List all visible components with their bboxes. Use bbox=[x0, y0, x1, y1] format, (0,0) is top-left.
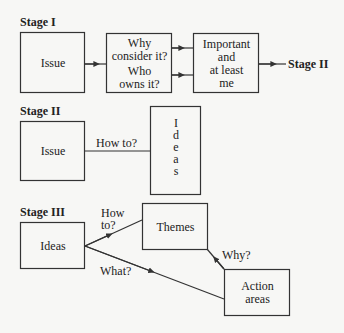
important-line3: at least bbox=[210, 64, 244, 77]
stage2-issue-label: Issue bbox=[21, 122, 85, 181]
stage1-important-label: Important and at least me bbox=[194, 34, 259, 93]
important-line4: me bbox=[219, 77, 234, 90]
stage3-howto-label: How to? bbox=[101, 207, 124, 231]
stage2-howto-label: How to? bbox=[96, 136, 137, 151]
diagram-canvas: Stage I Issue Why consider it? Who owns … bbox=[0, 0, 344, 333]
stage3-what-label: What? bbox=[100, 264, 131, 279]
stage2-title: Stage II bbox=[20, 104, 60, 119]
stage3-ideas-label: Ideas bbox=[21, 223, 85, 269]
questions-line3: Who bbox=[128, 65, 151, 78]
stage3-title: Stage III bbox=[20, 205, 65, 220]
stage1-next-stage-label: Stage II bbox=[288, 57, 328, 72]
important-line1: Important bbox=[203, 38, 250, 51]
questions-line4: owns it? bbox=[119, 78, 159, 91]
action-line2: areas bbox=[245, 293, 270, 306]
stage3-themes-label: Themes bbox=[143, 204, 208, 250]
stage3-why-label: Why? bbox=[222, 248, 251, 263]
stage1-title: Stage I bbox=[20, 15, 56, 30]
questions-line2: consider it? bbox=[112, 50, 168, 63]
stage1-issue-label: Issue bbox=[21, 33, 85, 93]
stage1-questions-label: Why consider it? Who owns it? bbox=[107, 34, 172, 93]
questions-line1: Why bbox=[128, 37, 151, 50]
stage2-ideas-label: I d e a s bbox=[151, 107, 201, 187]
stage3-action-label: Action areas bbox=[225, 270, 290, 316]
important-line2: and bbox=[218, 51, 235, 64]
howto-line2: to? bbox=[101, 219, 124, 231]
ideas-letter-4: s bbox=[174, 165, 179, 177]
